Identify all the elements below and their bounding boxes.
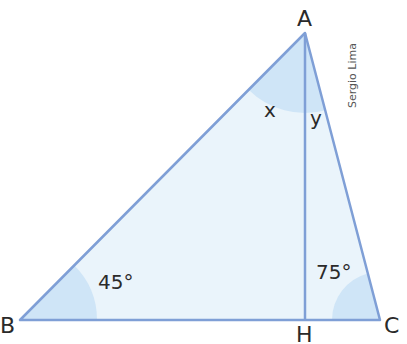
angle-c-label: 75° (316, 262, 351, 282)
vertex-h-label: H (296, 324, 313, 344)
angle-b-label: 45° (98, 272, 133, 292)
vertex-a-label: A (297, 8, 312, 30)
vertex-c-label: C (384, 315, 399, 337)
angle-x-label: x (264, 100, 276, 120)
vertex-b-label: B (0, 315, 15, 337)
photo-credit: Sergio Lima (346, 43, 359, 108)
angle-y-label: y (310, 108, 322, 128)
